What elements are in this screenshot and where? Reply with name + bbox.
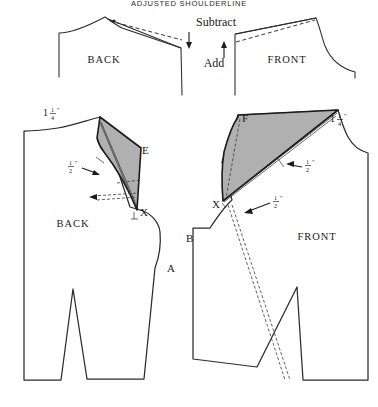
figure-title: ADJUSTED SHOULDERLINE [131, 0, 247, 8]
front-point-x: X [212, 198, 220, 210]
back-shoulder-measurement: 1 1 4 " [43, 106, 60, 121]
back-wedge-denominator: 2 [69, 167, 72, 174]
front-point-b: B [186, 232, 193, 244]
arrow-down-icon [186, 32, 192, 49]
top-back-label: BACK [88, 54, 121, 65]
back-shoulder-denominator: 4 [51, 114, 54, 121]
top-back-schematic: BACK [59, 17, 182, 95]
front-shoulder-unit: " [344, 112, 347, 119]
front-shoulder-denominator: 4 [338, 120, 341, 127]
adjusted-shoulderline-diagram: ADJUSTED SHOULDERLINE BACK Subtract FRON… [0, 0, 378, 407]
back-point-e: E [142, 144, 149, 156]
back-shoulder-numerator: 1 [51, 106, 54, 113]
back-bodice-pattern: 1 1 4 " 1 2 " E X A BACK [24, 106, 175, 380]
back-point-a: A [167, 262, 175, 274]
add-annotation: Add [204, 41, 227, 70]
subtract-annotation: Subtract [186, 15, 237, 49]
back-point-x: X [140, 206, 148, 218]
front-wedge-denominator: 2 [306, 166, 309, 173]
back-bodice-label: BACK [57, 218, 90, 229]
front-dart-denominator: 2 [274, 202, 277, 209]
front-bodice-label: FRONT [298, 231, 337, 242]
back-wedge-numerator: 1 [69, 159, 72, 166]
back-neck-point-marker [113, 20, 116, 23]
add-label: Add [204, 56, 225, 70]
front-wedge-numerator: 1 [306, 158, 309, 165]
subtract-label: Subtract [196, 15, 237, 29]
top-front-label: FRONT [268, 54, 307, 65]
top-front-schematic: FRONT [235, 18, 355, 95]
front-point-f: F [242, 112, 248, 124]
front-shoulder-whole: 1 [330, 113, 335, 124]
front-bodice-pattern: 1 1 4 " 1 2 " 1 2 " F X B FRONT [186, 110, 368, 380]
front-shoulder-numerator: 1 [338, 112, 341, 119]
back-shoulder-unit: " [57, 106, 60, 113]
back-shoulder-whole: 1 [43, 107, 48, 118]
front-dart-numerator: 1 [274, 194, 277, 201]
